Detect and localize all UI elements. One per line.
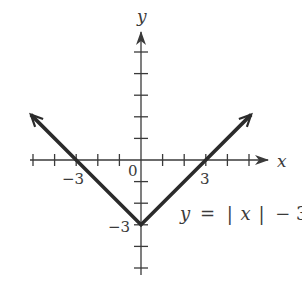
origin-label: 0 <box>128 162 138 180</box>
equation-label: y = | x | − 3 <box>179 203 302 225</box>
x-axis <box>30 154 268 166</box>
x-tick-label-3: 3 <box>200 170 210 188</box>
equation-rest: − 3 <box>275 203 302 224</box>
equation-bar-left: | <box>227 203 233 225</box>
x-axis-label: x <box>277 151 287 171</box>
absolute-value-graph: x y −3 3 0 −3 y = | x | − 3 <box>0 0 302 282</box>
equation-bar-right: | <box>258 203 264 225</box>
y-tick-label-neg3: −3 <box>108 218 130 236</box>
equation-equals: = <box>200 203 215 224</box>
equation-lhs: y <box>179 203 191 224</box>
x-tick-label-neg3: −3 <box>62 170 84 188</box>
y-axis-label: y <box>136 6 147 26</box>
equation-var: x <box>241 203 251 224</box>
y-axis <box>134 32 148 275</box>
